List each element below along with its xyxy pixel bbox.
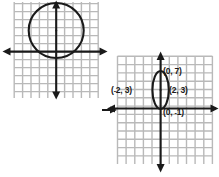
negative-sign-bottom: -: [174, 109, 176, 116]
point-label-right: (2, 3): [169, 86, 188, 95]
point-label-bottom-text: (0,: [163, 107, 174, 117]
circle-graph: [0, 0, 110, 120]
figure-canvas: (0, 7) (2, 3) (-2, 3) (0, -1): [0, 0, 219, 177]
x-axis: [3, 48, 108, 56]
point-label-left: (-2, 3): [111, 86, 132, 95]
y-axis: [52, 1, 60, 100]
point-label-left-text-after: 2, 3): [116, 85, 132, 95]
circle-graph-svg: [0, 0, 110, 120]
negative-sign-left: -: [114, 87, 116, 94]
point-label-bottom-text-after: 1): [177, 107, 184, 117]
x-axis-right-arrow: [211, 105, 219, 113]
y-axis-down-arrow: [52, 92, 60, 100]
ellipse-graph: (0, 7) (2, 3) (-2, 3) (0, -1): [106, 48, 219, 177]
x-axis-left-arrow: [3, 48, 11, 56]
y-axis-down-arrow: [157, 164, 165, 173]
y-axis-up-arrow: [52, 1, 60, 9]
point-label-top: (0, 7): [163, 67, 182, 76]
x-axis-left-arrow: [107, 105, 115, 113]
point-label-bottom: (0, -1): [163, 108, 184, 117]
